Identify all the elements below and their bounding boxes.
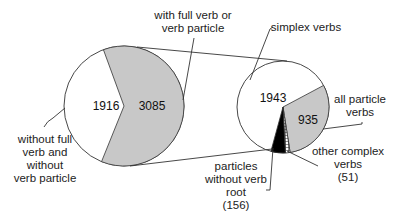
label-line: root <box>205 186 267 199</box>
label-line: without full <box>14 133 77 146</box>
label-line: other complex <box>312 145 384 158</box>
label-line: verb and <box>14 146 77 159</box>
label-line: with full verb or <box>154 9 231 22</box>
breakdown-pie <box>237 61 329 153</box>
label-all-particle-verbs: all particle verbs <box>334 93 386 119</box>
label-line: verbs <box>334 106 386 119</box>
leader-with-full <box>183 38 194 100</box>
label-line: verb particle <box>14 172 77 185</box>
label-line: without <box>14 159 77 172</box>
value-1943: 1943 <box>260 91 287 105</box>
label-without-full-verb: without full verb and without verb parti… <box>14 133 77 185</box>
label-line: without verb <box>205 173 267 186</box>
label-particles-without-verb-root: particles without verb root (156) <box>205 160 267 212</box>
label-with-full-verb: with full verb or verb particle <box>154 9 231 35</box>
label-other-complex-verbs: other complex verbs (51) <box>312 145 384 184</box>
main-pie <box>64 46 184 166</box>
label-line: particles <box>205 160 267 173</box>
label-simplex-verbs: simplex verbs <box>271 21 341 34</box>
label-line: verb particle <box>154 22 231 35</box>
leader-all-particle <box>323 122 362 129</box>
value-935: 935 <box>298 113 318 127</box>
leader-without-full <box>44 108 65 127</box>
label-line: simplex verbs <box>271 21 341 34</box>
leader-particles-without <box>266 148 273 190</box>
label-line: all particle <box>334 93 386 106</box>
value-3085: 3085 <box>139 99 166 113</box>
value-1916: 1916 <box>93 99 120 113</box>
label-line: (51) <box>312 171 384 184</box>
label-line: verbs <box>312 158 384 171</box>
label-line: (156) <box>205 199 267 212</box>
